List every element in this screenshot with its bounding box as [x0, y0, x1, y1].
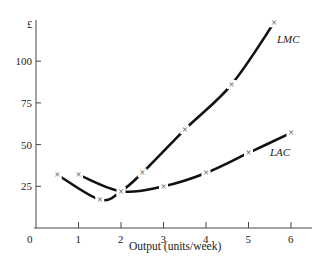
x-marker-icon: ×	[288, 127, 294, 138]
curves: ×××××××××××××	[53, 17, 296, 205]
x-marker-icon: ×	[203, 167, 209, 178]
x-axis-title: Output (units/week)	[129, 240, 221, 253]
x-marker-icon: ×	[229, 79, 235, 90]
x-tick-label: 6	[288, 233, 294, 245]
lmc-label: LMC	[276, 33, 300, 45]
x-marker-icon: ×	[246, 147, 252, 158]
y-tick-label: 25	[21, 180, 33, 192]
x-tick-label: 1	[76, 233, 82, 245]
x-tick-label: 5	[246, 233, 252, 245]
lac-curve	[79, 133, 292, 192]
cost-curves-chart: 123456255075100 £ 0 Output (units/week) …	[0, 0, 332, 268]
y-tick-label: 75	[21, 97, 33, 109]
x-tick-label: 2	[118, 233, 124, 245]
x-marker-icon: ×	[271, 17, 277, 28]
x-marker-icon: ×	[54, 169, 60, 180]
lac-label: LAC	[269, 146, 291, 158]
x-marker-icon: ×	[182, 124, 188, 135]
x-marker-icon: ×	[76, 169, 82, 180]
x-marker-icon: ×	[97, 194, 103, 205]
x-marker-icon: ×	[161, 181, 167, 192]
x-marker-icon: ×	[139, 167, 145, 178]
x-marker-icon: ×	[118, 186, 124, 197]
y-unit-label: £	[27, 18, 33, 30]
lmc-curve	[57, 23, 274, 200]
origin-label: 0	[27, 233, 33, 245]
y-tick-label: 50	[21, 139, 33, 151]
y-tick-label: 100	[16, 55, 33, 67]
